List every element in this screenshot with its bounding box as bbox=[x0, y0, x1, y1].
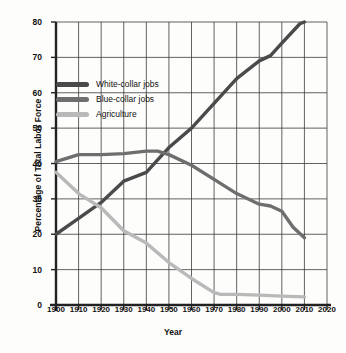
x-tick-2010: 2010 bbox=[296, 305, 314, 314]
x-tick-1910: 1910 bbox=[70, 305, 88, 314]
y-tick-80: 80 bbox=[16, 17, 42, 27]
x-tick-1990: 1990 bbox=[250, 305, 268, 314]
x-tick-1940: 1940 bbox=[137, 305, 155, 314]
x-tick-1970: 1970 bbox=[205, 305, 223, 314]
chart-container: Percentage of Total Labor Force Year 010… bbox=[0, 0, 346, 353]
x-tick-1960: 1960 bbox=[183, 305, 201, 314]
y-tick-50: 50 bbox=[16, 123, 42, 133]
x-tick-1930: 1930 bbox=[115, 305, 133, 314]
chart-legend: White-collar jobs Blue-collar jobs Agric… bbox=[56, 79, 159, 119]
y-tick-20: 20 bbox=[16, 229, 42, 239]
legend-swatch-white-collar bbox=[56, 82, 89, 87]
y-tick-40: 40 bbox=[16, 159, 42, 169]
x-tick-1980: 1980 bbox=[228, 305, 246, 314]
legend-swatch-agriculture bbox=[56, 112, 89, 117]
x-tick-1920: 1920 bbox=[92, 305, 110, 314]
legend-item-agriculture: Agriculture bbox=[56, 109, 159, 119]
y-tick-70: 70 bbox=[16, 52, 42, 62]
legend-label-agriculture: Agriculture bbox=[96, 109, 137, 119]
legend-item-blue-collar: Blue-collar jobs bbox=[56, 94, 159, 104]
plot-area bbox=[0, 0, 346, 353]
x-axis-title: Year bbox=[0, 327, 346, 337]
x-tick-1950: 1950 bbox=[160, 305, 178, 314]
legend-label-white-collar: White-collar jobs bbox=[96, 79, 159, 89]
x-tick-2020: 2020 bbox=[318, 305, 336, 314]
legend-swatch-blue-collar bbox=[56, 97, 89, 102]
legend-label-blue-collar: Blue-collar jobs bbox=[96, 94, 154, 104]
y-tick-60: 60 bbox=[16, 88, 42, 98]
x-axis-tick-labels: 1900191019201930194019501960197019801990… bbox=[0, 305, 346, 319]
x-tick-1900: 1900 bbox=[47, 305, 65, 314]
y-tick-30: 30 bbox=[16, 194, 42, 204]
x-tick-2000: 2000 bbox=[273, 305, 291, 314]
y-axis-tick-labels: 01020304050607080 bbox=[16, 0, 42, 353]
legend-item-white-collar: White-collar jobs bbox=[56, 79, 159, 89]
y-tick-10: 10 bbox=[16, 265, 42, 275]
